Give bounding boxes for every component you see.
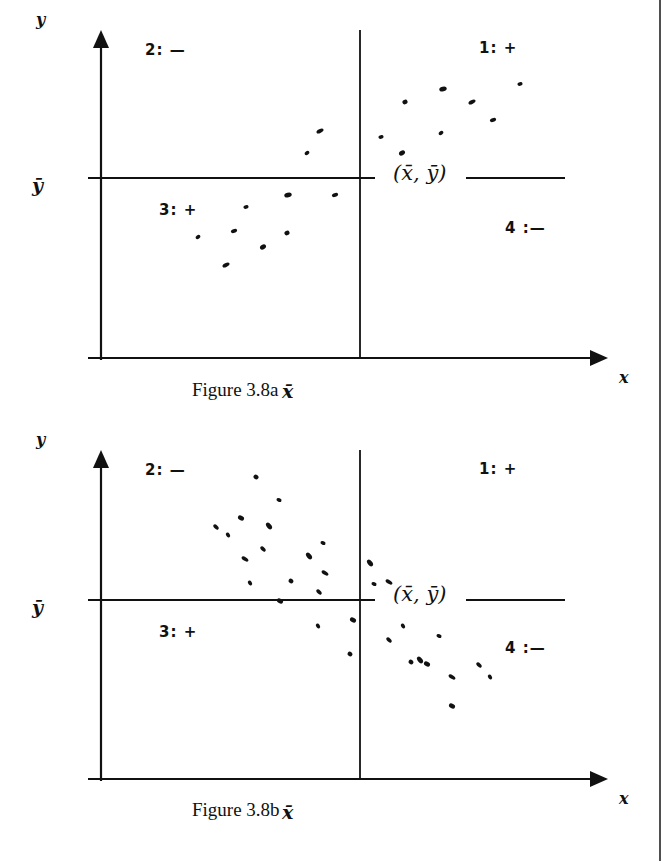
- data-point: [237, 515, 245, 522]
- figure-a-quadrant-1-label: 1: +: [479, 41, 517, 56]
- data-point: [489, 117, 496, 123]
- data-point: [247, 580, 253, 586]
- data-point: [475, 661, 482, 668]
- data-point: [366, 559, 374, 568]
- figure-a-centroid-label: (x̄, ȳ): [393, 163, 446, 184]
- data-point: [378, 135, 384, 140]
- data-point: [517, 82, 523, 87]
- data-point: [243, 205, 249, 210]
- data-point: [385, 578, 393, 585]
- data-point: [349, 617, 357, 624]
- figure-a-quadrant-3-label: 3: +: [159, 203, 197, 218]
- figure-b-scatter-points: [212, 474, 493, 710]
- data-point: [400, 623, 406, 629]
- data-point: [316, 128, 324, 135]
- data-point: [315, 588, 322, 595]
- data-point: [253, 474, 260, 481]
- figure-b-quadrant-4-label: 4 :—: [505, 641, 546, 656]
- figure-b-x-axis-label: x: [619, 791, 629, 807]
- data-point: [315, 623, 321, 629]
- figure-b-x-axis-arrow-icon: [590, 771, 608, 787]
- data-point: [402, 99, 409, 105]
- figure-a-y-axis-arrow-icon: [93, 30, 109, 48]
- data-point: [423, 661, 431, 668]
- data-point: [416, 656, 424, 665]
- figure-a-caption: Figure 3.8a: [192, 380, 279, 399]
- data-point: [265, 522, 273, 531]
- figure-a: [88, 30, 608, 366]
- data-point: [320, 540, 326, 545]
- data-point: [284, 230, 291, 236]
- figure-b-quadrant-3-label: 3: +: [159, 625, 197, 640]
- figure-a-scatter-points: [195, 82, 523, 269]
- data-point: [276, 497, 282, 502]
- figure-b-caption: Figure 3.8b: [192, 800, 280, 819]
- data-point: [304, 150, 310, 156]
- data-point: [321, 569, 329, 576]
- figure-a-quadrant-4-label: 4 :—: [505, 221, 546, 236]
- figure-b-centroid-label: (x̄, ȳ): [393, 584, 446, 605]
- figure-b-quadrant-2-label: 2: —: [145, 463, 186, 478]
- data-point: [436, 633, 442, 638]
- data-point: [195, 234, 201, 240]
- data-point: [347, 651, 354, 658]
- data-point: [487, 674, 493, 680]
- figure-a-y-axis-label: y: [36, 12, 45, 28]
- data-point: [439, 86, 448, 92]
- figure-a-quadrant-2-label: 2: —: [145, 43, 186, 58]
- figure-b-y-axis-label: y: [36, 432, 45, 448]
- data-point: [448, 673, 456, 680]
- data-point: [408, 659, 415, 666]
- data-point: [305, 552, 313, 561]
- data-point: [398, 149, 406, 156]
- figure-a-y-mean-label: ȳ: [32, 176, 43, 195]
- figure-b-x-mean-label: x̄: [282, 803, 293, 822]
- data-point: [448, 703, 456, 710]
- diagram-canvas: [0, 0, 670, 861]
- figure-b: [88, 450, 608, 787]
- data-point: [230, 228, 237, 234]
- data-point: [222, 262, 230, 269]
- data-point: [331, 192, 338, 198]
- figure-a-x-axis-label: x: [619, 370, 629, 386]
- data-point: [212, 523, 219, 530]
- figure-b-y-mean-label: ȳ: [32, 598, 43, 617]
- data-point: [259, 243, 267, 250]
- figure-a-x-mean-label: x̄: [282, 382, 293, 401]
- data-point: [284, 192, 293, 198]
- data-point: [276, 598, 284, 605]
- data-point: [259, 545, 266, 552]
- data-point: [385, 636, 392, 643]
- data-point: [371, 581, 377, 586]
- data-point: [225, 532, 231, 538]
- data-point: [468, 99, 476, 106]
- data-point: [288, 578, 295, 585]
- figure-b-y-axis-arrow-icon: [93, 450, 109, 468]
- data-point: [241, 555, 249, 562]
- data-point: [438, 130, 444, 136]
- figure-b-quadrant-1-label: 1: +: [479, 462, 517, 477]
- figure-a-x-axis-arrow-icon: [590, 350, 608, 366]
